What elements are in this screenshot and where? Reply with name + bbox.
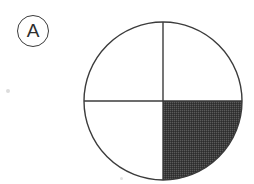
figure-root: A [0,0,254,184]
pie-chart [0,0,254,184]
scan-artifact-speck [120,177,123,180]
pie-slice-bottom-right-shaded [163,101,242,180]
scan-artifact-speck [6,89,10,93]
